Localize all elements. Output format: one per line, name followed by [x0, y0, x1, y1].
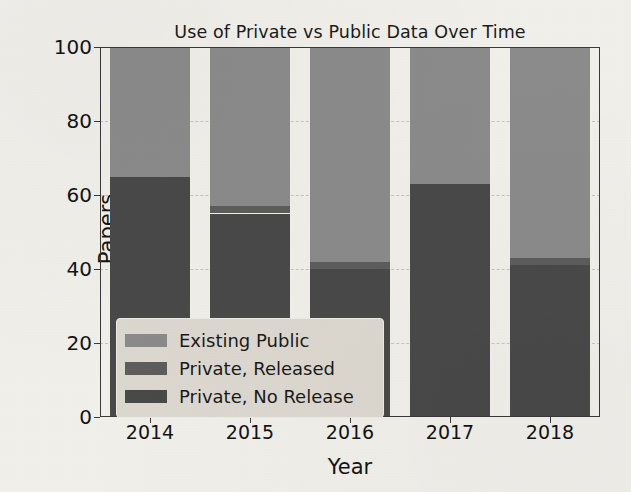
legend-swatch-icon [125, 390, 167, 403]
x-tick-label: 2018 [505, 421, 595, 443]
y-tick-label: 40 [38, 257, 92, 281]
x-tick-label: 2017 [405, 421, 495, 443]
y-tick-label: 60 [38, 183, 92, 207]
legend-label: Private, Released [179, 358, 335, 379]
legend-item[interactable]: Existing Public [125, 326, 373, 354]
legend-swatch-icon [125, 362, 167, 375]
x-tick-label: 2016 [305, 421, 395, 443]
chart-legend: Existing PublicPrivate, ReleasedPrivate,… [116, 318, 384, 418]
x-tick-label: 2014 [105, 421, 195, 443]
legend-item[interactable]: Private, Released [125, 354, 373, 382]
y-tick-label: 0 [38, 405, 92, 429]
figure-canvas: Use of Private vs Public Data Over Time … [0, 0, 631, 492]
x-axis-label: Year [100, 455, 600, 479]
legend-swatch-icon [125, 334, 167, 347]
x-tick-label: 2015 [205, 421, 295, 443]
legend-label: Existing Public [179, 330, 309, 351]
legend-label: Private, No Release [179, 386, 354, 407]
y-tick-label: 20 [38, 331, 92, 355]
y-tick-label: 80 [38, 109, 92, 133]
y-tick-label: 100 [38, 35, 92, 59]
legend-item[interactable]: Private, No Release [125, 382, 373, 410]
y-tick-mark [94, 417, 100, 418]
chart-title: Use of Private vs Public Data Over Time [100, 22, 600, 42]
